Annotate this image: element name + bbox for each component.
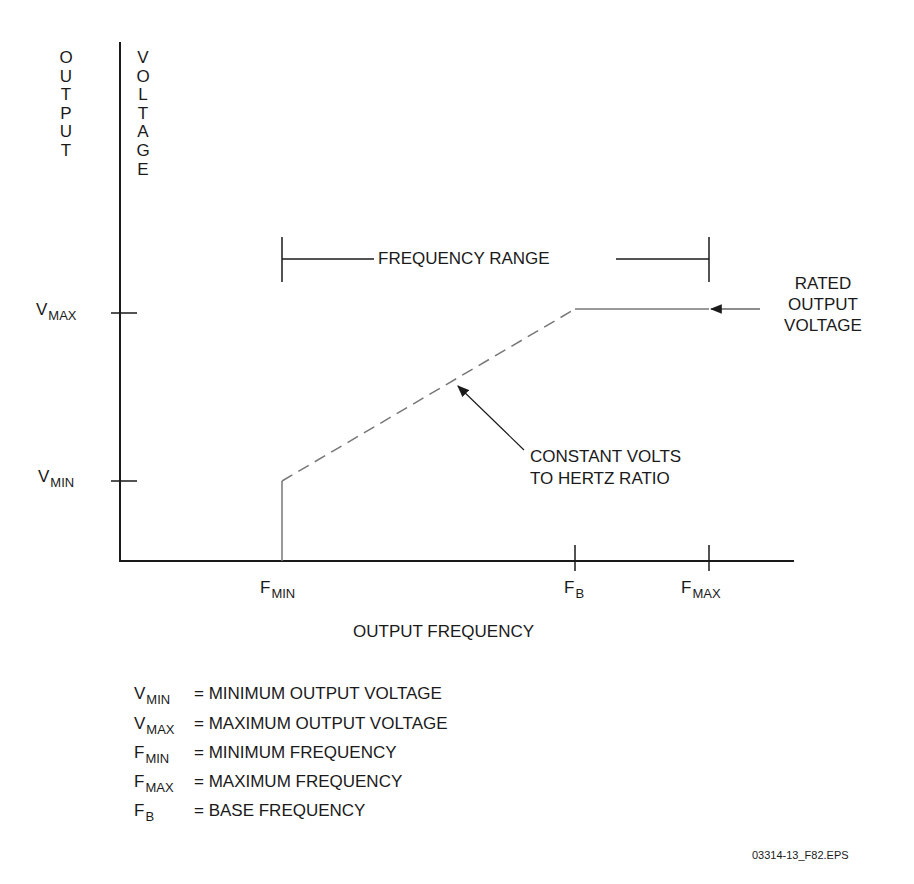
legend-row-vmin: VMIN= MINIMUM OUTPUT VOLTAGE [134, 684, 442, 705]
figure-id: 03314-13_F82.EPS [752, 849, 849, 861]
legend-row-fmax: FMAX= MAXIMUM FREQUENCY [134, 772, 402, 793]
frequency-range-label: FREQUENCY RANGE [378, 249, 550, 269]
rated-output-voltage-label: RATED OUTPUT VOLTAGE [778, 273, 868, 336]
constant-vhz-label: CONSTANT VOLTS TO HERTZ RATIO [530, 446, 681, 490]
fb-label: FB [564, 578, 584, 599]
legend-row-fmin: FMIN= MINIMUM FREQUENCY [134, 743, 397, 764]
fmin-label: FMIN [260, 578, 295, 599]
vmax-label: VMAX [36, 300, 77, 321]
vhz-arrow [458, 386, 524, 450]
x-axis-title: OUTPUT FREQUENCY [353, 622, 534, 642]
fmax-label: FMAX [681, 578, 721, 599]
vmin-label: VMIN [38, 467, 74, 488]
legend-row-vmax: VMAX= MAXIMUM OUTPUT VOLTAGE [134, 714, 448, 735]
y-title-voltage: V O L T A G E [135, 49, 151, 179]
y-title-output: O U T P U T [58, 49, 74, 161]
legend-row-fb: FB= BASE FREQUENCY [134, 801, 365, 822]
